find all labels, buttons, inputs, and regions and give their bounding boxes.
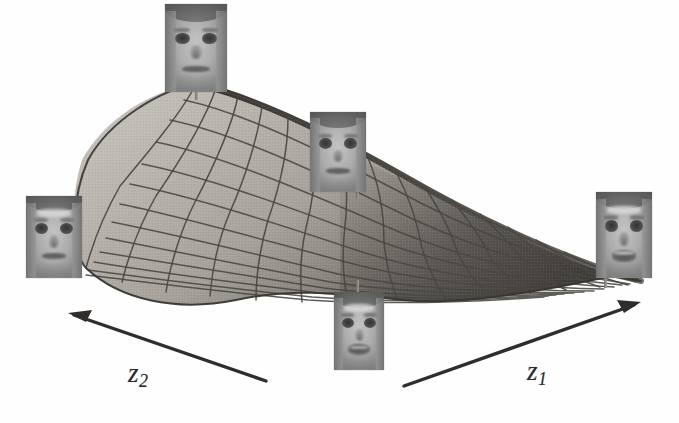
figure-canvas: z2 z1 xyxy=(0,0,679,423)
face-side-shadow-left xyxy=(165,11,176,92)
mouth xyxy=(42,253,67,259)
face-side-shadow-right xyxy=(376,298,385,370)
chin-shadow xyxy=(606,261,642,278)
axis-label-z1-symbol: z xyxy=(527,356,538,386)
eye-left xyxy=(342,318,354,328)
eye-right xyxy=(630,220,643,231)
chin-shadow xyxy=(36,262,72,278)
face-thumbnail-right xyxy=(596,192,652,278)
chin-shadow xyxy=(176,74,216,92)
face-side-shadow-right xyxy=(72,203,82,278)
face-side-shadow-right xyxy=(216,11,227,92)
eye-right xyxy=(364,318,376,328)
face-thumbnail-bottom xyxy=(334,292,384,370)
eyebrow-right xyxy=(630,215,645,219)
nose xyxy=(333,150,343,163)
eyebrow-left xyxy=(174,28,190,32)
eyebrow-left xyxy=(604,215,619,219)
forehead-highlight xyxy=(607,206,641,215)
nose xyxy=(355,329,364,341)
eyebrow-right xyxy=(364,313,377,317)
eye-right xyxy=(60,223,73,234)
eyebrow-right xyxy=(344,134,359,138)
eye-left xyxy=(35,223,48,234)
axis-label-z1-subscript: 1 xyxy=(538,369,548,389)
eyebrow-left xyxy=(318,134,333,138)
eye-left xyxy=(319,138,332,148)
face-thumbnail-left xyxy=(26,196,82,278)
face-side-shadow-left xyxy=(26,203,36,278)
chin-shadow xyxy=(343,354,375,370)
face-side-shadow-left xyxy=(310,118,320,192)
eye-left xyxy=(605,220,618,231)
face-thumbnail-center xyxy=(310,112,366,192)
face-side-shadow-left xyxy=(596,199,606,278)
face-side-shadow-right xyxy=(356,118,366,192)
chin-shadow xyxy=(320,176,356,192)
mouth xyxy=(326,168,351,174)
axis-label-z2-subscript: 2 xyxy=(139,371,149,391)
eyebrow-right xyxy=(60,218,75,222)
eye-right xyxy=(344,138,357,148)
axis-arrow-z1 xyxy=(404,300,641,386)
nose xyxy=(49,235,59,248)
mouth xyxy=(182,66,209,72)
forehead-highlight xyxy=(37,209,71,217)
face-thumbnail-top xyxy=(165,4,227,92)
face-side-shadow-left xyxy=(334,298,343,370)
axis-label-z2: z2 xyxy=(128,360,149,390)
axis-label-z2-symbol: z xyxy=(128,358,139,388)
axis-label-z1: z1 xyxy=(527,358,548,388)
nose xyxy=(190,45,201,59)
eyebrow-right xyxy=(202,28,218,32)
axis-arrow-z2 xyxy=(68,310,266,381)
forehead-highlight xyxy=(344,304,374,312)
eyebrow-left xyxy=(341,313,354,317)
face-side-shadow-right xyxy=(642,199,652,278)
nose xyxy=(619,232,629,246)
